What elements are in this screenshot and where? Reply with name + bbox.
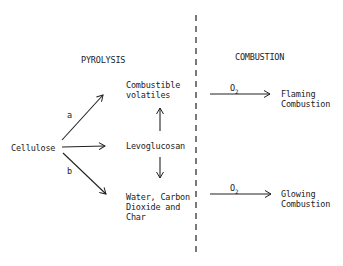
edge-label-b: b bbox=[67, 166, 72, 176]
arrow-levoglucosan bbox=[62, 146, 105, 147]
o2-subscript: 2 bbox=[235, 88, 238, 95]
node-volatiles-line1: Combustible bbox=[126, 80, 180, 90]
node-char-line2: Dioxide and bbox=[126, 202, 180, 212]
node-glowing-line1: Glowing bbox=[281, 189, 315, 199]
heading-combustion: COMBUSTION bbox=[235, 52, 284, 62]
edge-label-a: a bbox=[67, 110, 72, 120]
o2-subscript: 2 bbox=[235, 188, 238, 195]
heading-pyrolysis: PYROLYSIS bbox=[81, 55, 125, 65]
edge-label-o2-top: O2 bbox=[230, 83, 238, 97]
node-volatiles-line2: volatiles bbox=[126, 90, 170, 100]
node-char-line3: Char bbox=[126, 212, 146, 222]
node-flaming-line2: Combustion bbox=[281, 99, 330, 109]
node-cellulose: Cellulose bbox=[11, 143, 55, 153]
diagram-arrows bbox=[0, 0, 343, 266]
node-flaming-line1: Flaming bbox=[281, 89, 315, 99]
edge-label-o2-bottom: O2 bbox=[230, 183, 238, 197]
node-char-line1: Water, Carbon bbox=[126, 192, 190, 202]
node-glowing-line2: Combustion bbox=[281, 199, 330, 209]
node-levoglucosan: Levoglucosan bbox=[126, 141, 185, 151]
